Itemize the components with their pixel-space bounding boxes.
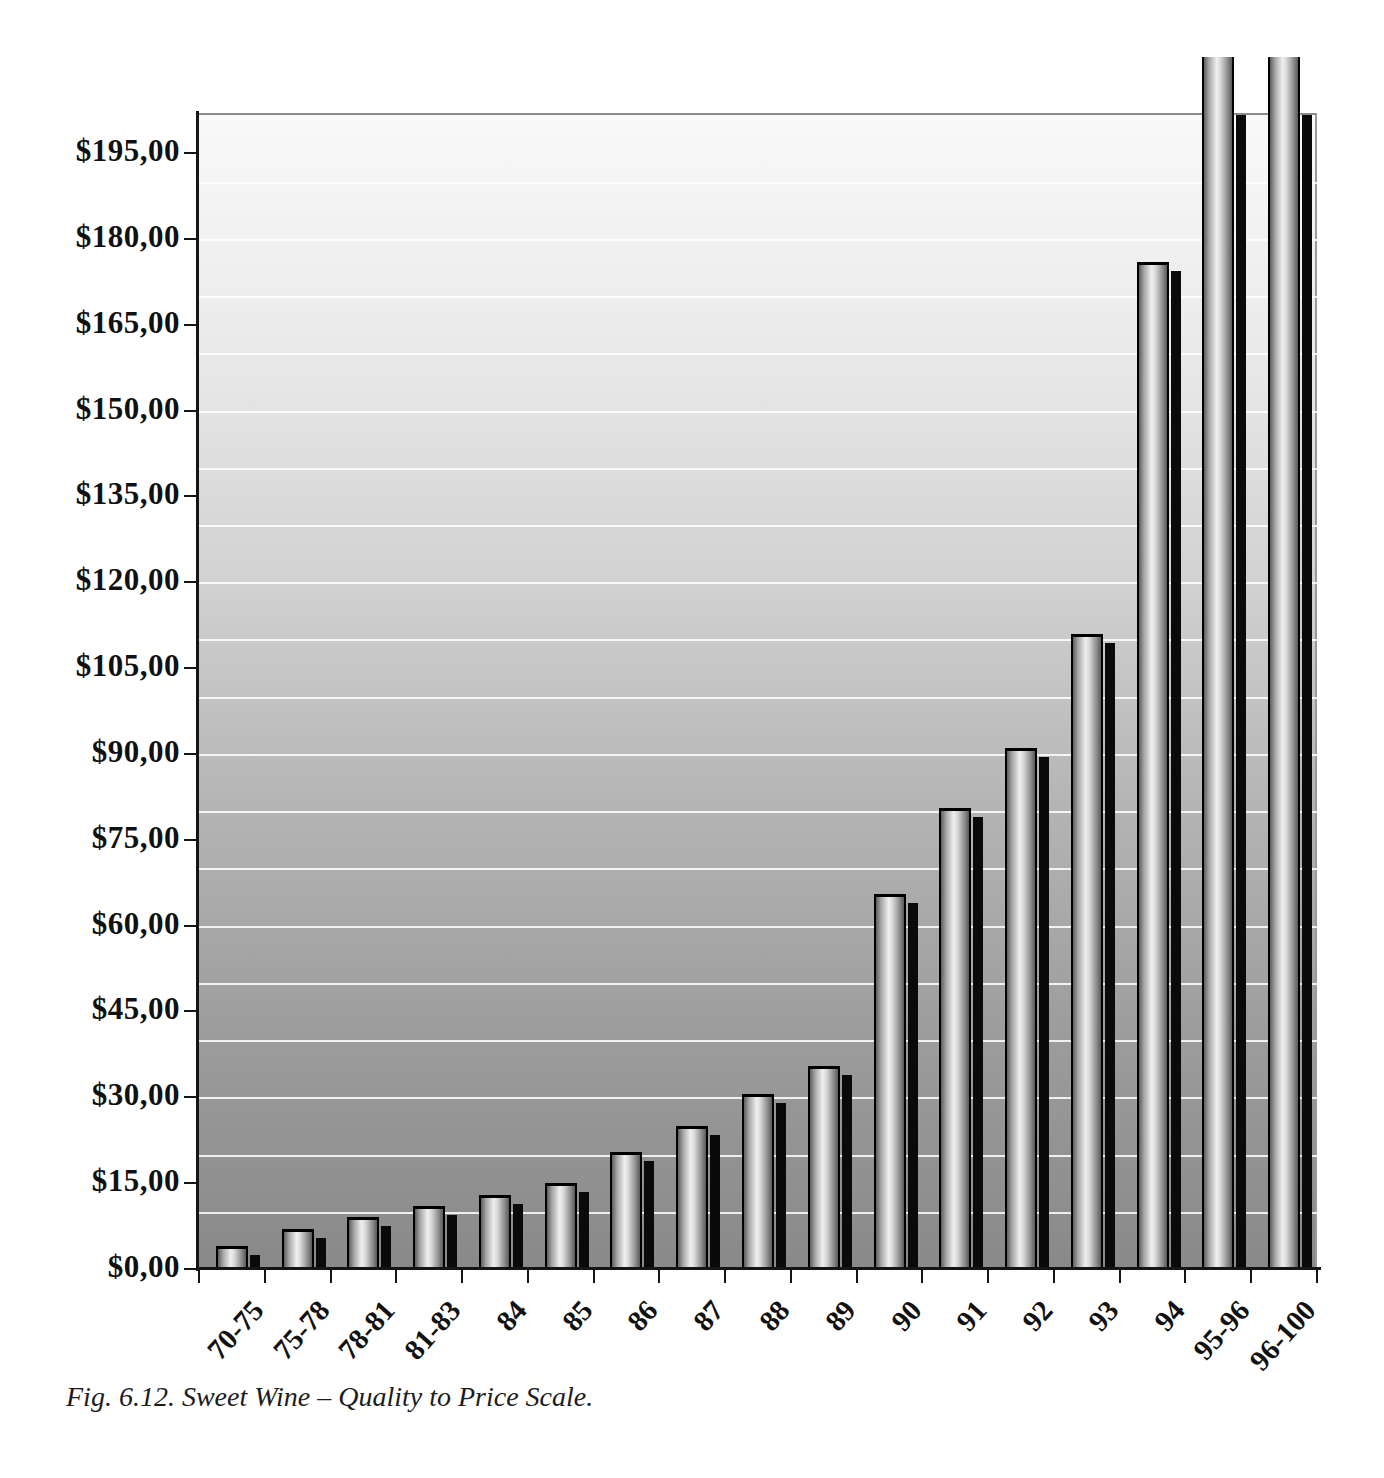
y-axis-label: $165,00: [30, 305, 180, 341]
bar-85: [545, 1183, 577, 1268]
x-axis-line: [196, 1267, 1321, 1270]
bar-shadow-84: [513, 1204, 523, 1268]
bar-shadow-93: [1105, 643, 1115, 1268]
x-axis-tick: [264, 1270, 266, 1283]
bar-95-96: [1202, 57, 1234, 1268]
x-axis-tick: [856, 1270, 858, 1283]
chart-caption: Fig. 6.12. Sweet Wine – Quality to Price…: [66, 1381, 593, 1413]
bar-96-100: [1268, 57, 1300, 1268]
bar-88: [742, 1094, 774, 1268]
bar-shadow-92: [1039, 757, 1049, 1268]
y-axis-label: $180,00: [30, 219, 180, 255]
x-axis-tick: [658, 1270, 660, 1283]
x-axis-tick: [987, 1270, 989, 1283]
y-axis-label: $135,00: [30, 476, 180, 512]
y-axis-label: $195,00: [30, 133, 180, 169]
bar-86: [610, 1152, 642, 1268]
bar-shadow-81-83: [447, 1215, 457, 1268]
bar-93: [1071, 634, 1103, 1268]
y-axis-label: $30,00: [30, 1077, 180, 1113]
x-axis-tick: [1184, 1270, 1186, 1283]
x-axis-tick: [1250, 1270, 1252, 1283]
bar-84: [479, 1195, 511, 1268]
y-axis-label: $105,00: [30, 648, 180, 684]
bar-90: [874, 894, 906, 1268]
x-axis-tick: [198, 1270, 200, 1283]
bar-shadow-87: [710, 1135, 720, 1268]
bar-shadow-89: [842, 1075, 852, 1268]
bar-shadow-78-81: [381, 1226, 391, 1268]
x-axis-tick: [790, 1270, 792, 1283]
bar-78-81: [347, 1217, 379, 1268]
y-axis-label: $90,00: [30, 734, 180, 770]
y-axis-label: $45,00: [30, 991, 180, 1027]
bar-87: [676, 1126, 708, 1268]
bar-70-75: [216, 1246, 248, 1268]
x-axis-tick: [1316, 1270, 1318, 1283]
bar-89: [808, 1066, 840, 1268]
x-axis-tick: [724, 1270, 726, 1283]
figure-canvas: $0,00$15,00$30,00$45,00$60,00$75,00$90,0…: [0, 0, 1384, 1478]
x-axis-tick: [593, 1270, 595, 1283]
x-axis-tick: [330, 1270, 332, 1283]
y-axis-label: $60,00: [30, 906, 180, 942]
bar-shadow-88: [776, 1103, 786, 1268]
bar-91: [939, 808, 971, 1268]
bar-92: [1005, 748, 1037, 1268]
bar-shadow-91: [973, 817, 983, 1268]
y-axis-label: $15,00: [30, 1163, 180, 1199]
x-axis-tick: [461, 1270, 463, 1283]
bar-shadow-90: [908, 903, 918, 1268]
bar-shadow-86: [644, 1161, 654, 1268]
bar-shadow-75-78: [316, 1238, 326, 1268]
bar-shadow-94: [1171, 271, 1181, 1268]
y-axis-label: $150,00: [30, 391, 180, 427]
x-axis-tick: [395, 1270, 397, 1283]
bar-shadow-95-96: [1236, 115, 1246, 1268]
x-axis-tick: [1119, 1270, 1121, 1283]
y-axis-label: $0,00: [30, 1249, 180, 1285]
bar-shadow-85: [579, 1192, 589, 1268]
y-axis-line: [196, 111, 199, 1271]
bar-shadow-96-100: [1302, 115, 1312, 1268]
x-axis-tick: [921, 1270, 923, 1283]
bar-81-83: [413, 1206, 445, 1268]
y-axis-label: $120,00: [30, 562, 180, 598]
bar-75-78: [282, 1229, 314, 1268]
bar-94: [1137, 262, 1169, 1268]
y-axis-label: $75,00: [30, 820, 180, 856]
x-axis-tick: [1053, 1270, 1055, 1283]
x-axis-tick: [527, 1270, 529, 1283]
